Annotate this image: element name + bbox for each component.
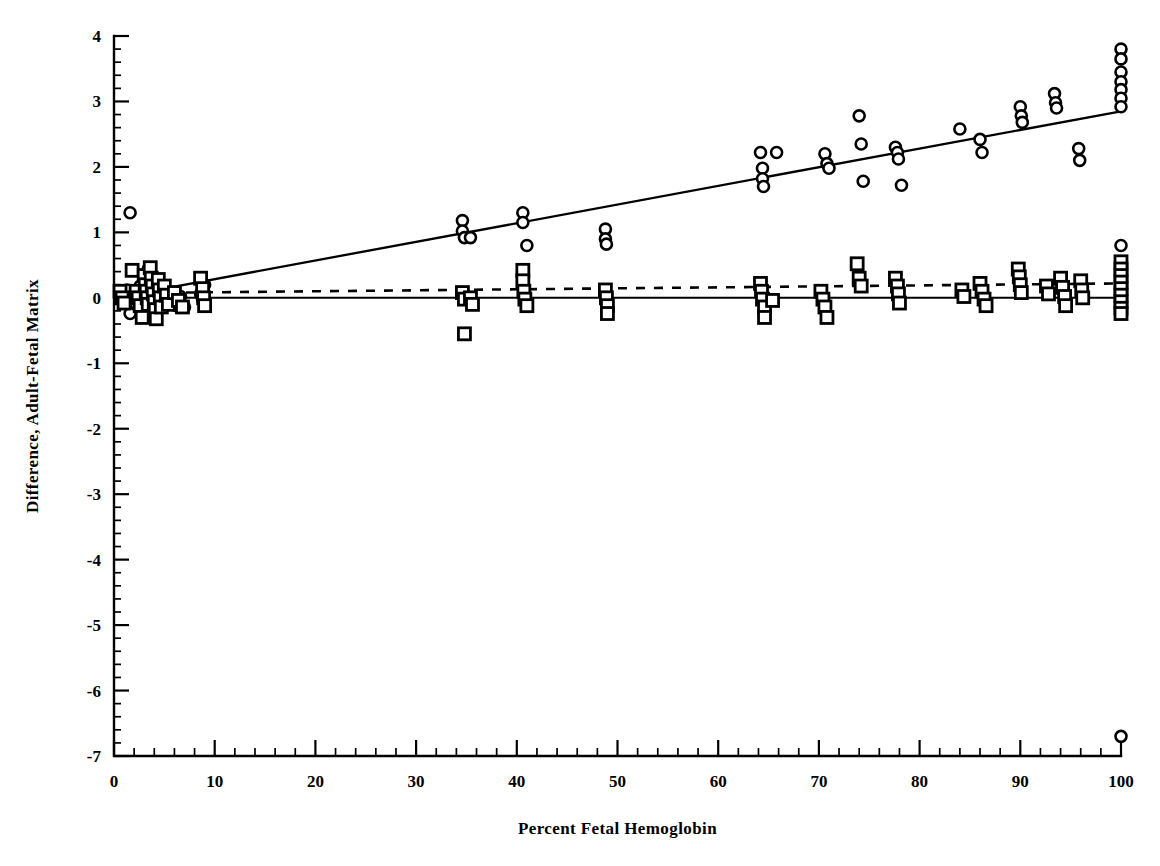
data-point-circle xyxy=(517,217,528,228)
data-point-square xyxy=(855,280,867,292)
data-point-square xyxy=(458,328,470,340)
x-axis-title: Percent Fetal Hemoglobin xyxy=(518,819,717,838)
data-point-circle xyxy=(758,181,769,192)
x-tick-label: 80 xyxy=(911,772,928,791)
axis-spines xyxy=(114,36,1121,756)
fit-lines xyxy=(114,111,1121,298)
data-points xyxy=(114,44,1127,742)
data-point-square xyxy=(821,311,833,323)
data-point-square xyxy=(980,300,992,312)
series-circle-series xyxy=(122,44,1127,742)
data-point-circle xyxy=(1116,53,1127,64)
data-point-circle xyxy=(854,110,865,121)
x-tick-label: 70 xyxy=(810,772,827,791)
y-tick-label: -5 xyxy=(87,616,101,635)
y-tick-label: 3 xyxy=(93,92,102,111)
x-tick-label: 50 xyxy=(609,772,626,791)
y-tick-label: -3 xyxy=(87,485,101,504)
x-tick-label: 30 xyxy=(408,772,425,791)
data-point-square xyxy=(1060,300,1072,312)
data-point-circle xyxy=(1074,155,1085,166)
x-tick-label: 40 xyxy=(508,772,525,791)
y-tick-label: -7 xyxy=(87,747,102,766)
data-point-circle xyxy=(1116,240,1127,251)
axis-labels: 0102030405060708090100-7-6-5-4-3-2-10123… xyxy=(23,27,1134,838)
data-point-square xyxy=(176,301,188,313)
data-point-square xyxy=(767,294,779,306)
data-point-circle xyxy=(1017,117,1028,128)
data-point-circle xyxy=(823,163,834,174)
data-point-square xyxy=(601,308,613,320)
data-point-circle xyxy=(1116,101,1127,112)
y-tick-label: -4 xyxy=(87,551,102,570)
data-point-circle xyxy=(1051,103,1062,114)
data-point-circle xyxy=(858,176,869,187)
data-point-circle xyxy=(1073,143,1084,154)
data-point-square xyxy=(521,300,533,312)
data-point-square xyxy=(136,311,148,323)
regression-line-solid xyxy=(114,111,1121,298)
y-tick-label: -2 xyxy=(87,420,101,439)
y-tick-label: 1 xyxy=(93,223,102,242)
data-point-square xyxy=(199,300,211,312)
data-point-square xyxy=(851,258,863,270)
data-point-circle xyxy=(465,232,476,243)
data-point-square xyxy=(958,291,970,303)
x-tick-label: 90 xyxy=(1012,772,1029,791)
data-point-circle xyxy=(975,134,986,145)
data-point-square xyxy=(759,311,771,323)
data-point-square xyxy=(893,297,905,309)
y-tick-label: 0 xyxy=(93,289,102,308)
data-point-square xyxy=(1015,287,1027,299)
plot-canvas: 0102030405060708090100-7-6-5-4-3-2-10123… xyxy=(0,0,1160,866)
data-point-square xyxy=(1115,308,1127,320)
y-tick-label: 4 xyxy=(93,27,102,46)
data-point-circle xyxy=(771,147,782,158)
scatter-plot-figure: 0102030405060708090100-7-6-5-4-3-2-10123… xyxy=(0,0,1160,866)
data-point-circle xyxy=(954,123,965,134)
y-axis-title: Difference, Adult-Fetal Matrix xyxy=(23,279,42,513)
data-point-circle xyxy=(977,147,988,158)
data-point-circle xyxy=(856,139,867,150)
x-tick-label: 0 xyxy=(110,772,119,791)
data-point-circle xyxy=(125,207,136,218)
data-point-square xyxy=(466,298,478,310)
data-point-circle xyxy=(1116,731,1127,742)
data-point-circle xyxy=(521,240,532,251)
data-point-circle xyxy=(601,239,612,250)
x-tick-label: 10 xyxy=(206,772,223,791)
x-tick-label: 20 xyxy=(307,772,324,791)
axes xyxy=(114,36,1121,756)
x-tick-label: 60 xyxy=(710,772,727,791)
y-tick-label: -6 xyxy=(87,682,101,701)
x-tick-label: 100 xyxy=(1108,772,1134,791)
data-point-circle xyxy=(896,180,907,191)
data-point-square xyxy=(150,313,162,325)
data-point-square xyxy=(1077,292,1089,304)
data-point-circle xyxy=(755,147,766,158)
data-point-square xyxy=(1042,288,1054,300)
data-point-circle xyxy=(893,154,904,165)
data-point-square xyxy=(118,297,130,309)
y-tick-label: -1 xyxy=(87,354,101,373)
y-tick-label: 2 xyxy=(93,158,102,177)
data-point-square xyxy=(126,264,138,276)
